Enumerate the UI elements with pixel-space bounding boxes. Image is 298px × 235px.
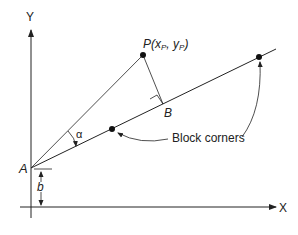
diagram-canvas: Y X α b A P(xP, yP) B Block corners xyxy=(0,0,298,235)
offset-label: b xyxy=(37,180,44,194)
point-p-dot xyxy=(140,52,146,58)
angle-label: α xyxy=(76,128,83,140)
foot-label: B xyxy=(164,106,172,120)
block-corner-dot-2 xyxy=(256,54,262,60)
line-a-to-p xyxy=(31,55,143,168)
block-corner-dot-1 xyxy=(109,126,115,132)
block-line xyxy=(31,49,276,168)
y-axis-label: Y xyxy=(26,10,34,24)
point-p-label: P(xP, yP) xyxy=(143,37,188,52)
annotation-arrow-left xyxy=(118,133,168,141)
origin-label: A xyxy=(18,161,28,176)
block-corners-label: Block corners xyxy=(172,131,245,145)
angle-arc xyxy=(68,131,76,146)
annotation-arrow-right xyxy=(242,62,260,137)
perpendicular-p-to-b xyxy=(143,55,163,104)
x-axis-label: X xyxy=(279,201,287,215)
